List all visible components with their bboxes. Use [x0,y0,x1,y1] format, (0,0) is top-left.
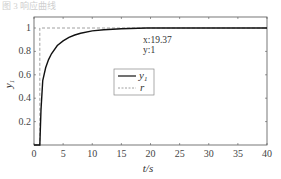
data-tip-x: x:19.37 [143,35,172,45]
x-tick-label: 15 [116,148,126,159]
faded-title: 图 3 响应曲线 [2,0,56,11]
x-axis-label: t/s [143,162,153,174]
x-tick-label: 0 [32,148,37,159]
x-tick-label: 5 [61,148,66,159]
x-tick-label: 30 [204,148,214,159]
x-tick-label: 20 [146,148,156,159]
y-tick-label: 0.2 [19,116,32,127]
legend: y1 r [114,69,154,95]
legend-r-label: r [140,81,145,93]
x-tick-label: 40 [262,148,272,159]
data-tip-y: y:1 [143,45,155,55]
data-tip: x:19.37 y:1 [143,35,172,55]
y-axis-label: y1 [2,80,16,89]
step-response-chart: 图 3 响应曲线 05101520253035400.20.40.60.81 t… [0,0,281,179]
y-tick-label: 0.6 [19,69,32,80]
x-tick-label: 25 [175,148,185,159]
y-tick-label: 1 [26,22,31,33]
x-tick-label: 10 [87,148,97,159]
x-tick-label: 35 [233,148,243,159]
y-tick-label: 0.8 [19,45,32,56]
legend-box [114,69,154,95]
y-tick-label: 0.4 [19,92,32,103]
